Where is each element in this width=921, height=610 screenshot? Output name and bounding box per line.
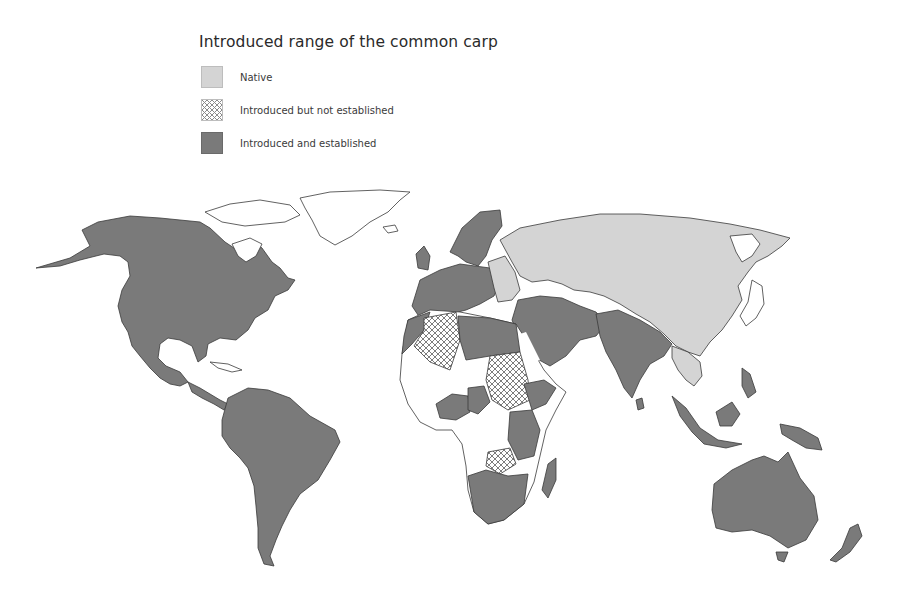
scandinavia [450, 210, 502, 266]
iceland [383, 225, 398, 233]
greenland [300, 190, 410, 245]
south-america [222, 388, 340, 566]
new-guinea [780, 424, 822, 450]
australia [712, 452, 818, 548]
borneo [716, 402, 740, 426]
philippines [742, 368, 756, 398]
japan [740, 280, 764, 326]
madagascar [542, 458, 556, 498]
arctic-islands [205, 200, 300, 226]
uk-ireland [416, 246, 430, 270]
central-america [188, 382, 228, 410]
world-map [0, 0, 921, 610]
tasmania [776, 552, 788, 562]
southern-africa [468, 470, 528, 524]
cuba [210, 362, 242, 372]
new-zealand [830, 524, 862, 562]
sri-lanka [636, 398, 644, 410]
